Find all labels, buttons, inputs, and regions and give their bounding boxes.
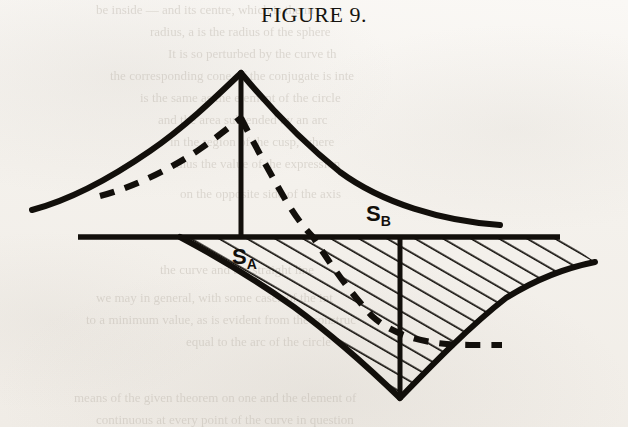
figure-drawing <box>0 0 628 427</box>
figure-page: be inside — and its centre, which is the… <box>0 0 628 427</box>
label-s-b-subscript: B <box>381 213 391 229</box>
label-s-b-base: S <box>366 201 381 226</box>
label-s-a: SA <box>232 246 257 271</box>
upper-solid-curve <box>32 73 500 225</box>
label-s-b: SB <box>366 203 391 228</box>
label-s-a-base: S <box>232 244 247 269</box>
label-s-a-subscript: A <box>247 256 257 272</box>
